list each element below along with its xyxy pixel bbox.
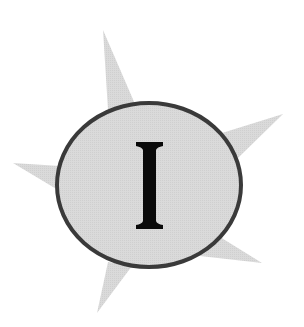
spike-left: [13, 163, 60, 190]
emblem: [0, 0, 304, 327]
spike-top: [103, 30, 135, 110]
spike-bottom: [97, 262, 132, 313]
starburst-emblem-graphic: [0, 0, 304, 327]
